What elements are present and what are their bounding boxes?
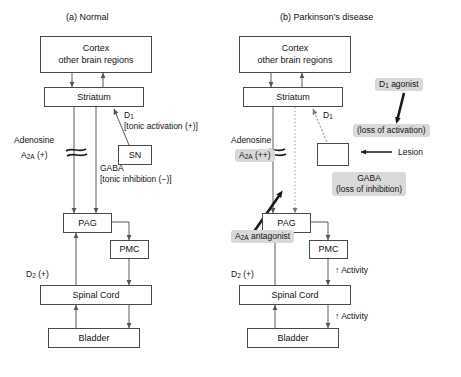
label-d1: D1 [124, 110, 134, 121]
callout-a2a-antagonist: A2A antagonist [231, 230, 294, 243]
node-sn-lesioned [317, 143, 349, 166]
callout-gaba-line1: GABA [336, 173, 402, 184]
label-d2-sub: 2 [237, 272, 241, 279]
label-activity-bladder: ↑ Activity [335, 311, 368, 322]
label-lesion: Lesion [398, 147, 423, 158]
label-d2: D2 (+) [231, 269, 254, 280]
label-d1: D1 [323, 110, 333, 121]
node-spinal-cord: Spinal Cord [40, 285, 152, 305]
node-pag: PAG [63, 213, 112, 233]
label-d2-sub: 2 [32, 272, 36, 279]
label-a2a: A2A (+) [21, 150, 48, 161]
label-d1-sub: 1 [130, 113, 134, 120]
node-striatum: Striatum [44, 87, 144, 107]
label-gaba: GABA [100, 163, 124, 174]
node-cortex-line1: Cortex [58, 43, 133, 54]
node-cortex-line2: other brain regions [58, 55, 133, 66]
label-d1-sub: 1 [329, 113, 333, 120]
label-adenosine: Adenosine [14, 135, 54, 146]
callout-loss-of-activation: (loss of activation) [353, 124, 430, 137]
panel-normal: (a) Normal [0, 0, 230, 377]
node-bladder: Bladder [247, 328, 339, 348]
node-cortex-line2: other brain regions [257, 55, 332, 66]
callout-d1-agonist-rest: agonist [389, 79, 419, 89]
panel-parkinsons: (b) Parkinson’s disease [231, 0, 461, 377]
node-cortex: Cortex other brain regions [239, 36, 351, 73]
node-cortex-line1: Cortex [257, 43, 332, 54]
callout-a2a-antagonist-rest: antagonist [249, 231, 291, 241]
label-a2a-sub: 2A [27, 153, 35, 160]
label-d2-sign: (+) [243, 269, 254, 279]
callout-gaba-line2: (loss of inhibition) [336, 184, 402, 195]
label-d1-note: [tonic activation (+)] [124, 121, 198, 132]
label-activity-pmc: ↑ Activity [335, 265, 368, 276]
node-bladder: Bladder [48, 328, 140, 348]
label-a2a-sign: (+) [37, 150, 48, 160]
label-adenosine: Adenosine [231, 135, 271, 146]
label-d2-sign: (+) [38, 269, 49, 279]
label-gaba-note: [tonic inhibition (−)] [100, 174, 172, 185]
d1-agonist-arrow [397, 93, 404, 121]
node-sn: SN [118, 145, 152, 165]
adenosine-crossbar-icon [66, 149, 87, 156]
label-d2: D2 (+) [26, 269, 49, 280]
callout-gaba-loss: GABA (loss of inhibition) [332, 172, 406, 196]
node-cortex: Cortex other brain regions [40, 36, 152, 73]
label-a2a-highlight: A2A (++) [235, 149, 275, 162]
callout-d1-agonist: D1 agonist [375, 78, 423, 91]
label-a2a-sub: 2A [245, 153, 253, 160]
node-pmc: PMC [309, 240, 348, 259]
node-pmc: PMC [110, 240, 149, 259]
node-striatum: Striatum [243, 87, 343, 107]
label-a2a-sign: (++) [255, 150, 271, 160]
node-spinal-cord: Spinal Cord [239, 285, 351, 305]
callout-a2a-antagonist-sub: 2A [241, 234, 249, 241]
